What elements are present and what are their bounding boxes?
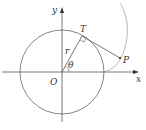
x-axis-label: x bbox=[136, 74, 141, 84]
tangent-segment bbox=[82, 36, 120, 58]
point-p-label: P bbox=[122, 55, 130, 65]
radius-label: r bbox=[65, 46, 70, 56]
theta-label: θ bbox=[68, 60, 74, 70]
tangent-point-label: T bbox=[80, 24, 87, 34]
y-axis-label: y bbox=[51, 5, 58, 15]
origin-label: O bbox=[50, 77, 58, 87]
involute-diagram: y x O T P r θ bbox=[0, 0, 146, 130]
point-p-marker bbox=[119, 57, 121, 59]
y-axis-arrow-icon bbox=[60, 7, 64, 13]
